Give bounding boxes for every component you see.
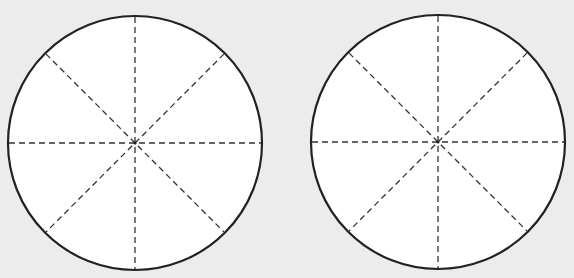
left-circle (8, 16, 262, 270)
center-point (436, 140, 439, 143)
center-point (133, 141, 136, 144)
diagram-canvas (0, 0, 574, 278)
circles-group (8, 15, 565, 270)
right-circle (311, 15, 565, 269)
